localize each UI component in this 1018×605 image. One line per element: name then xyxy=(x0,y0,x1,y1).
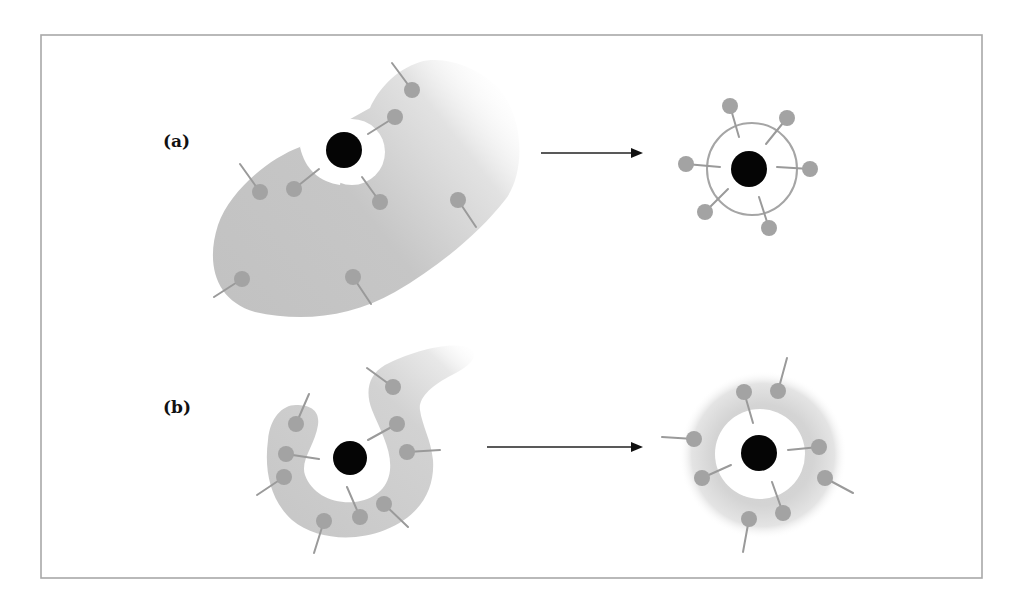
molecule-head xyxy=(722,98,738,114)
particle-a-after xyxy=(731,151,767,187)
molecule-head xyxy=(775,505,791,521)
molecule-head xyxy=(316,513,332,529)
arrow-head xyxy=(631,442,643,452)
molecule-head xyxy=(817,470,833,486)
phase-band-b xyxy=(267,345,474,537)
molecule-head xyxy=(450,192,466,208)
molecule-head xyxy=(404,82,420,98)
molecule-head xyxy=(376,496,392,512)
arrow-head xyxy=(631,148,643,158)
transition-arrow-b xyxy=(487,442,643,452)
molecule-head xyxy=(770,383,786,399)
molecule-head xyxy=(399,444,415,460)
molecule-head xyxy=(736,384,752,400)
particle-b-after xyxy=(741,435,777,471)
molecule-head xyxy=(802,161,818,177)
panel-b-before xyxy=(257,345,474,553)
molecule-head xyxy=(234,271,250,287)
transition-arrow-a xyxy=(541,148,643,158)
molecule-head xyxy=(811,439,827,455)
panel-a-after xyxy=(678,98,818,236)
molecule-head xyxy=(741,511,757,527)
molecule-head xyxy=(286,181,302,197)
particle-a-before xyxy=(326,132,362,168)
panel-a: (a) xyxy=(163,60,818,317)
molecule-head xyxy=(345,269,361,285)
molecule-head xyxy=(278,446,294,462)
molecule-head xyxy=(276,469,292,485)
molecule-head xyxy=(389,416,405,432)
molecule-head xyxy=(779,110,795,126)
molecule-head xyxy=(697,204,713,220)
molecule-head xyxy=(678,156,694,172)
molecule-head xyxy=(252,184,268,200)
panel-label-a: (a) xyxy=(163,131,190,151)
molecule-head xyxy=(385,379,401,395)
molecule-head xyxy=(761,220,777,236)
molecule-head xyxy=(372,194,388,210)
panel-b-after xyxy=(662,358,853,552)
particle-b-before xyxy=(333,441,367,475)
molecule-head xyxy=(686,431,702,447)
panel-b: (b) xyxy=(163,345,853,553)
molecule-head xyxy=(288,416,304,432)
panel-label-b: (b) xyxy=(163,397,191,417)
molecule-head xyxy=(352,509,368,525)
molecule-head xyxy=(694,470,710,486)
panel-a-before xyxy=(213,60,520,317)
molecule-head xyxy=(387,109,403,125)
diagram-canvas: (a) xyxy=(0,0,1018,605)
